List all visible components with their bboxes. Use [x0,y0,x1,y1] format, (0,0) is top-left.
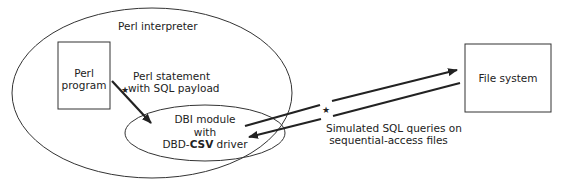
dbi-module-line2: with [145,126,265,138]
dbi-module-line1: DBI module [145,113,265,125]
perl-program-label-line2: program [58,79,110,91]
statement-label-line2: with SQL payload [128,82,220,94]
dbi-module-line3: DBD-CSV driver [145,138,265,150]
query-arrow-outbound-b [332,70,457,101]
csv-driver-name: CSV [190,138,214,150]
queries-label-line2: sequential-access files [326,134,451,146]
statement-label-line1: Perl statement [133,70,210,82]
driver-suffix: driver [213,138,247,150]
dbd-prefix: DBD- [163,138,190,150]
queries-label-line1: Simulated SQL queries on [326,122,451,134]
star-marker-statement: ★ [121,84,129,96]
file-system-label: File system [465,72,551,84]
diagram-canvas [0,0,562,185]
perl-program-label-line1: Perl [58,67,110,79]
query-arrow-inbound-a [333,83,460,116]
perl-interpreter-label: Perl interpreter [118,20,198,32]
star-marker-queries: ★ [322,104,330,116]
